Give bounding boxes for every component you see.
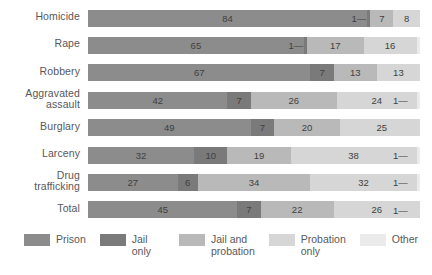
bar-segment-jail-only: 7: [251, 119, 274, 136]
category-label: Total: [0, 198, 80, 214]
segment-value: 49: [164, 122, 175, 133]
bar-segment-prison: 42: [88, 92, 227, 109]
category-label: Larceny: [0, 144, 80, 160]
category-label: Robbery: [0, 61, 80, 77]
legend-item[interactable]: Jail only: [100, 234, 165, 258]
chart-row: Rape1—651716: [0, 34, 432, 61]
bar-segment-prison: 49: [88, 119, 251, 136]
segment-value: 8: [404, 13, 409, 24]
bar-segment-prison: 84: [88, 10, 367, 27]
bar-segment-prison: 27: [88, 174, 178, 191]
segment-value: 32: [358, 177, 369, 188]
segment-value: 7: [246, 204, 251, 215]
segment-value: 13: [350, 67, 361, 78]
bar-segment-jail-only: 7: [310, 64, 333, 81]
segment-value: 27: [128, 177, 139, 188]
segment-value-callout: 1—: [393, 95, 408, 106]
plot-area: Homicide1—8478Rape1—651716Robbery6771313…: [0, 0, 432, 228]
segment-value: 10: [206, 150, 217, 161]
bar-segment-prison: 45: [88, 201, 237, 218]
category-label: Homicide: [0, 7, 80, 23]
segment-value: 7: [379, 13, 384, 24]
segment-value: 16: [385, 40, 396, 51]
stacked-bar: 6771313: [88, 64, 420, 81]
segment-value: 24: [372, 95, 383, 106]
category-label-line: trafficking: [0, 181, 80, 193]
chart-row: Aggravatedassault1—4272624: [0, 89, 432, 116]
legend-label: Prison: [56, 234, 86, 246]
bar-segment-prison: 32: [88, 147, 194, 164]
category-label: Rape: [0, 34, 80, 50]
bar-segment-prison: 67: [88, 64, 310, 81]
category-label: Burglary: [0, 116, 80, 132]
bar-segment-jail-only: 7: [227, 92, 250, 109]
segment-value: 25: [377, 122, 388, 133]
legend-swatch: [179, 234, 205, 246]
stacked-bar: 4272624: [88, 92, 420, 109]
segment-value: 7: [260, 122, 265, 133]
segment-value-callout: 1—: [393, 177, 408, 188]
category-label-line: Larceny: [0, 148, 80, 160]
stacked-bar: 8478: [88, 10, 420, 27]
segment-value: 22: [292, 204, 303, 215]
category-label-line: Rape: [0, 38, 80, 50]
segment-value: 38: [348, 150, 359, 161]
legend-item[interactable]: Probation only: [269, 234, 346, 258]
stacked-bar: 4972025: [88, 119, 420, 136]
legend-swatch: [360, 234, 386, 246]
legend-swatch: [100, 234, 126, 246]
chart-row: Total1—4572226: [0, 198, 432, 225]
bar-segment-other: [417, 92, 420, 109]
segment-value: 42: [152, 95, 163, 106]
legend-label: Probation only: [301, 234, 346, 258]
bar-segment-jail-and-probation: 7: [370, 10, 393, 27]
segment-value-callout: 1—: [393, 204, 408, 215]
stacked-bar-chart: Homicide1—8478Rape1—651716Robbery6771313…: [0, 0, 432, 275]
segment-value: 20: [302, 122, 313, 133]
segment-value: 34: [249, 177, 260, 188]
bar-segment-jail-and-probation: 13: [334, 64, 377, 81]
stacked-bar: 651716: [88, 37, 420, 54]
segment-value-callout: 1—: [352, 13, 367, 24]
category-label-line: Total: [0, 203, 80, 215]
bar-segment-jail-and-probation: 17: [307, 37, 363, 54]
bar-segment-other: [417, 174, 420, 191]
category-label-line: Robbery: [0, 66, 80, 78]
chart-row: Burglary4972025: [0, 116, 432, 143]
bar-segment-jail-only: 6: [178, 174, 198, 191]
bar-segment-probation-only: 8: [393, 10, 420, 27]
segment-value: 26: [289, 95, 300, 106]
segment-value: 32: [136, 150, 147, 161]
bar-segment-prison: 65: [88, 37, 304, 54]
bar-segment-jail-only: 10: [194, 147, 227, 164]
legend-item[interactable]: Jail and probation: [179, 234, 255, 258]
segment-value: 26: [372, 204, 383, 215]
bar-segment-jail-and-probation: 20: [274, 119, 340, 136]
bar-segment-jail-and-probation: 34: [198, 174, 311, 191]
chart-legend: PrisonJail onlyJail and probationProbati…: [24, 234, 432, 270]
category-label-line: Homicide: [0, 11, 80, 23]
stacked-bar: 32101938: [88, 147, 420, 164]
chart-row: Homicide1—8478: [0, 7, 432, 34]
bar-segment-other: [417, 37, 420, 54]
stacked-bar: 2763432: [88, 174, 420, 191]
category-label: Drugtrafficking: [0, 170, 80, 193]
segment-value: 7: [319, 67, 324, 78]
segment-value-callout: 1—: [288, 40, 303, 51]
bar-segment-jail-and-probation: 22: [261, 201, 334, 218]
legend-item[interactable]: Other: [360, 234, 418, 246]
legend-label: Jail and probation: [211, 234, 255, 258]
legend-label: Jail only: [132, 234, 165, 258]
bar-segment-probation-only: 13: [377, 64, 420, 81]
segment-value: 67: [194, 67, 205, 78]
legend-swatch: [269, 234, 295, 246]
legend-item[interactable]: Prison: [24, 234, 86, 246]
segment-value: 45: [157, 204, 168, 215]
bar-segment-jail-and-probation: 19: [227, 147, 290, 164]
category-label: Aggravatedassault: [0, 88, 80, 111]
segment-value: 6: [185, 177, 190, 188]
segment-value: 17: [330, 40, 341, 51]
segment-value: 84: [222, 13, 233, 24]
segment-value-callout: 1—: [393, 150, 408, 161]
bar-segment-probation-only: 25: [340, 119, 420, 136]
